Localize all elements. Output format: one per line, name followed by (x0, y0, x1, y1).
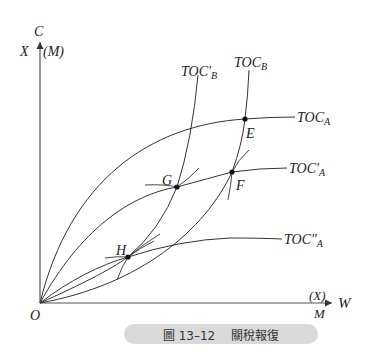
figure-title: 關稅報復 (231, 326, 279, 343)
svg-text:TOC′A: TOC′A (289, 161, 326, 178)
label-toc-b-prime: TOC′B (181, 64, 217, 81)
label-f: F (235, 178, 245, 193)
offer-curve-diagram: E F G H C X (M) O (X) M W TOC′B TOCB TOC… (0, 0, 369, 362)
curve-toc-b-prime (40, 75, 198, 303)
point-h (125, 254, 130, 259)
figure-caption: 圖 13–12 關稅報復 (124, 324, 318, 344)
point-e (242, 116, 247, 121)
x-axis-label-x: (X) (309, 288, 326, 303)
figure-number: 圖 13–12 (163, 326, 215, 343)
svg-text:TOC″A: TOC″A (284, 232, 324, 249)
point-g (174, 184, 179, 189)
label-toc-a-double-prime: TOC″A (284, 232, 324, 249)
label-toc-a-prime: TOC′A (289, 161, 326, 178)
tangent-arc-h1 (105, 234, 160, 258)
svg-text:TOC′B: TOC′B (181, 64, 217, 81)
y-axis-label-c: C (34, 24, 44, 39)
curve-toc-a (40, 117, 295, 303)
y-axis-label-m: (M) (43, 44, 64, 60)
label-h: H (115, 243, 127, 258)
point-f (229, 169, 234, 174)
svg-text:TOCB: TOCB (234, 55, 267, 72)
curve-toc-b (40, 70, 249, 303)
label-g: G (162, 173, 172, 188)
svg-text:TOCA: TOCA (297, 110, 331, 127)
curve-toc-a-double-prime (40, 238, 282, 303)
label-e: E (245, 126, 255, 141)
x-axis-label-m: M (313, 306, 326, 321)
curve-toc-a-prime (40, 168, 287, 303)
origin-label: O (30, 308, 40, 323)
label-toc-b: TOCB (234, 55, 267, 72)
x-axis-label-w: W (338, 295, 352, 311)
label-toc-a: TOCA (297, 110, 331, 127)
y-axis-label-x: X (19, 44, 29, 59)
